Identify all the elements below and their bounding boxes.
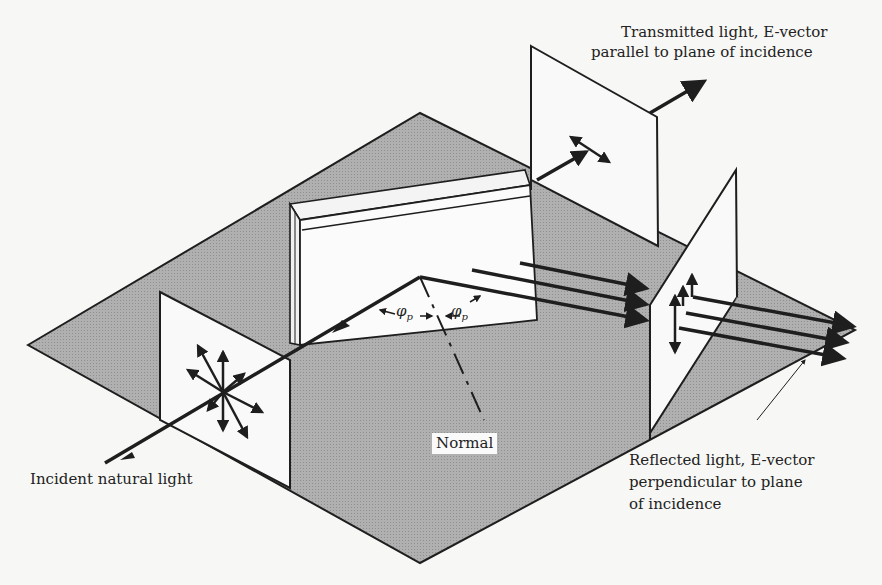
angle-subscript: p <box>407 311 413 322</box>
reflected-label-line3: of incidence <box>629 494 721 515</box>
brewster-angle-right: φp <box>451 302 468 322</box>
angle-symbol: φ <box>451 302 462 320</box>
brewster-angle-left: φp <box>396 302 413 322</box>
reflected-label-line2: perpendicular to plane <box>629 472 803 493</box>
diagram-canvas <box>0 0 882 585</box>
transmitted-label-line2: parallel to plane of incidence <box>591 42 813 63</box>
polarization-diagram: Transmitted light, E-vector parallel to … <box>0 0 882 585</box>
incident-label: Incident natural light <box>30 469 193 490</box>
transmitted-label-line1: Transmitted light, E-vector <box>621 22 828 43</box>
normal-label: Normal <box>432 433 497 454</box>
angle-subscript: p <box>462 311 468 322</box>
angle-symbol: φ <box>396 302 407 320</box>
reflected-label-line1: Reflected light, E-vector <box>629 450 814 471</box>
